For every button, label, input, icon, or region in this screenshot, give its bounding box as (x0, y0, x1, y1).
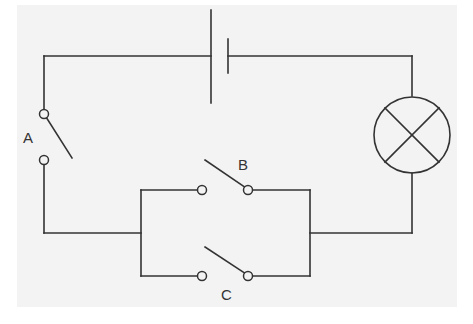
switch-a-terminal-top (40, 110, 49, 119)
lamp-icon (374, 97, 450, 173)
switch-c-terminal-left (198, 272, 207, 281)
switch-c-icon (198, 247, 253, 281)
switch-a-label: A (23, 129, 33, 146)
switch-c-lever (205, 247, 246, 274)
switch-c-label: C (221, 286, 232, 303)
circuit-diagram: A B C (0, 0, 473, 324)
switch-c-terminal-right (244, 272, 253, 281)
switch-a-icon (40, 110, 73, 165)
switch-b-label: B (238, 156, 248, 173)
switch-b-terminal-left (198, 186, 207, 195)
switch-b-terminal-right (244, 186, 253, 195)
switch-a-terminal-bottom (40, 156, 49, 165)
battery-icon (211, 10, 228, 103)
switch-a-lever (46, 117, 72, 158)
